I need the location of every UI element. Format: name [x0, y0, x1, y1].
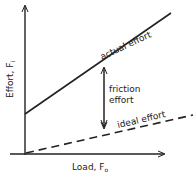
x-axis-label: Load, Fo	[72, 162, 109, 173]
effort-load-diagram: actual effort ideal effort friction effo…	[0, 0, 196, 177]
actual-effort-label: actual effort	[99, 29, 154, 62]
friction-effort-label: friction effort	[109, 84, 143, 105]
actual-effort-line	[25, 13, 171, 114]
ideal-effort-line	[26, 115, 193, 153]
y-axis-label: Effort, Fi	[5, 60, 16, 98]
